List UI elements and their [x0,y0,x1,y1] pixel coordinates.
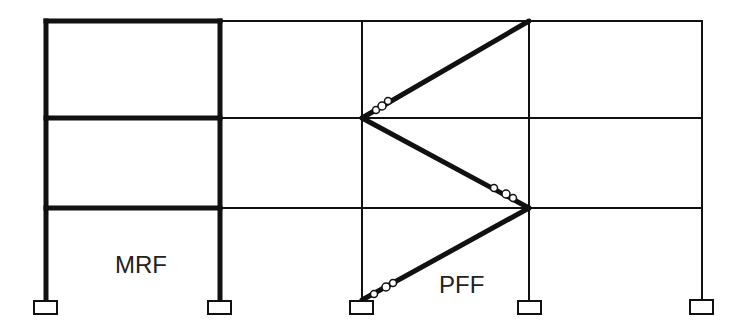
pff-label: PFF [439,271,484,298]
support-icon [518,301,541,314]
fuse-markers [371,98,517,298]
frame-diagram: MRF PFF [0,0,746,334]
fuse-circle-icon [390,280,397,287]
fuse-circle-icon [502,190,510,198]
support-icon [208,301,231,314]
fuse-circle-icon [491,185,498,192]
fuse-circle-icon [385,98,392,105]
fuse-circle-icon [510,195,517,202]
supports [34,300,713,314]
fuse-circle-icon [382,283,390,291]
support-icon [34,301,57,314]
fuse-circle-icon [371,291,378,298]
mrf-label: MRF [115,251,167,278]
support-icon [350,301,373,314]
support-icon [690,300,713,314]
braces [362,21,529,300]
